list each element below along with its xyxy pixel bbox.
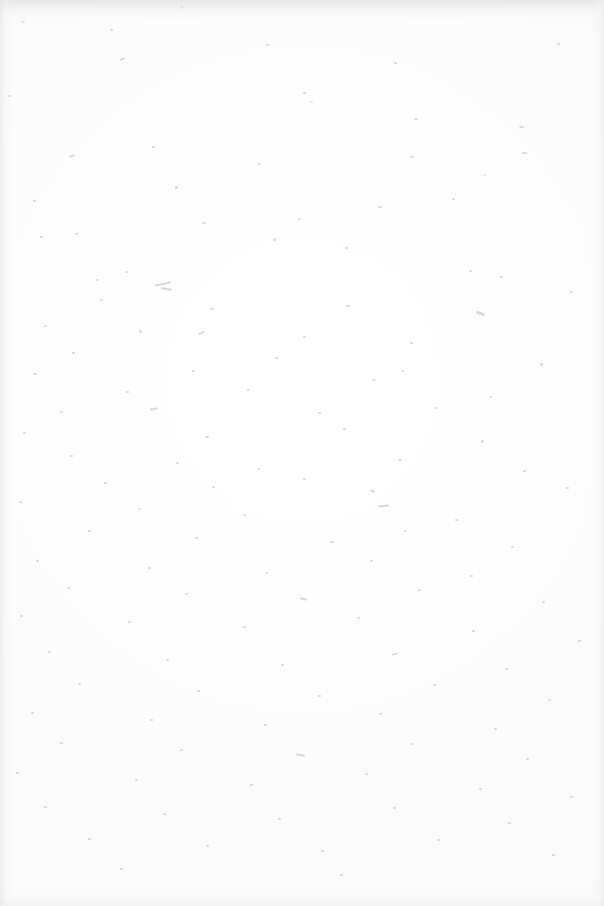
page-right-edge-shadow [590, 0, 604, 906]
page-top-edge-shadow [0, 0, 604, 26]
page-left-edge-shadow [0, 0, 14, 906]
scanned-page [0, 0, 604, 906]
page-bottom-edge-shadow [0, 886, 604, 906]
page-content-area [48, 56, 556, 850]
